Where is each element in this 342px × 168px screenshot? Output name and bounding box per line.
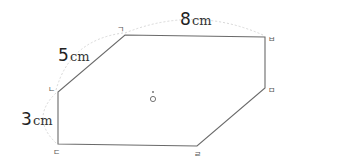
vertex-label-nieun: ㄴ xyxy=(48,85,55,94)
center-circle-icon xyxy=(150,96,155,101)
hexagon-diagram: 8 cm 5 cm 3 cm ㄱ ㅂ ㅁ ㄹ ㄷ ㄴ xyxy=(0,0,342,168)
vertex-label-mieum: ㅁ xyxy=(268,86,275,95)
label-8cm: 8 cm xyxy=(180,9,212,29)
vertex-label-digeut: ㄷ xyxy=(53,148,60,157)
svg-text:cm: cm xyxy=(70,49,90,64)
svg-text:cm: cm xyxy=(192,13,212,28)
center-dot xyxy=(152,91,154,93)
svg-text:cm: cm xyxy=(33,113,53,128)
vertex-label-rieul: ㄹ xyxy=(194,150,201,159)
vertex-label-giyeok: ㄱ xyxy=(117,25,124,34)
vertex-label-bieup: ㅂ xyxy=(268,35,275,44)
svg-text:8: 8 xyxy=(180,9,191,29)
label-3cm: 3 cm xyxy=(21,109,53,129)
svg-text:3: 3 xyxy=(21,109,32,129)
label-5cm: 5 cm xyxy=(58,45,90,65)
svg-text:5: 5 xyxy=(58,45,69,65)
